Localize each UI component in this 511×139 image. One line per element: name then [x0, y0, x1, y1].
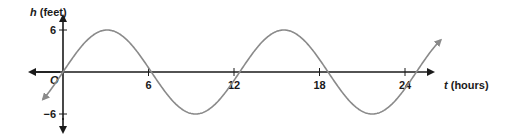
y-axis-label: h (feet)	[30, 6, 67, 18]
x-axis-unit: (hours)	[451, 79, 489, 91]
x-tick-label: 6	[145, 79, 151, 91]
y-tick-label: −6	[43, 108, 56, 120]
x-axis-variable: t	[444, 79, 451, 91]
y-axis-variable: h	[30, 6, 40, 18]
sine-chart: 61218246−6Oh (feet)t (hours)	[0, 0, 511, 139]
x-axis-label: t (hours)	[444, 79, 489, 91]
y-axis-unit: (feet)	[40, 6, 67, 18]
y-tick-label: 6	[50, 24, 56, 36]
curve-end-arrow	[439, 40, 440, 41]
curve-start-arrow	[43, 98, 44, 100]
x-tick-label: 18	[313, 79, 325, 91]
